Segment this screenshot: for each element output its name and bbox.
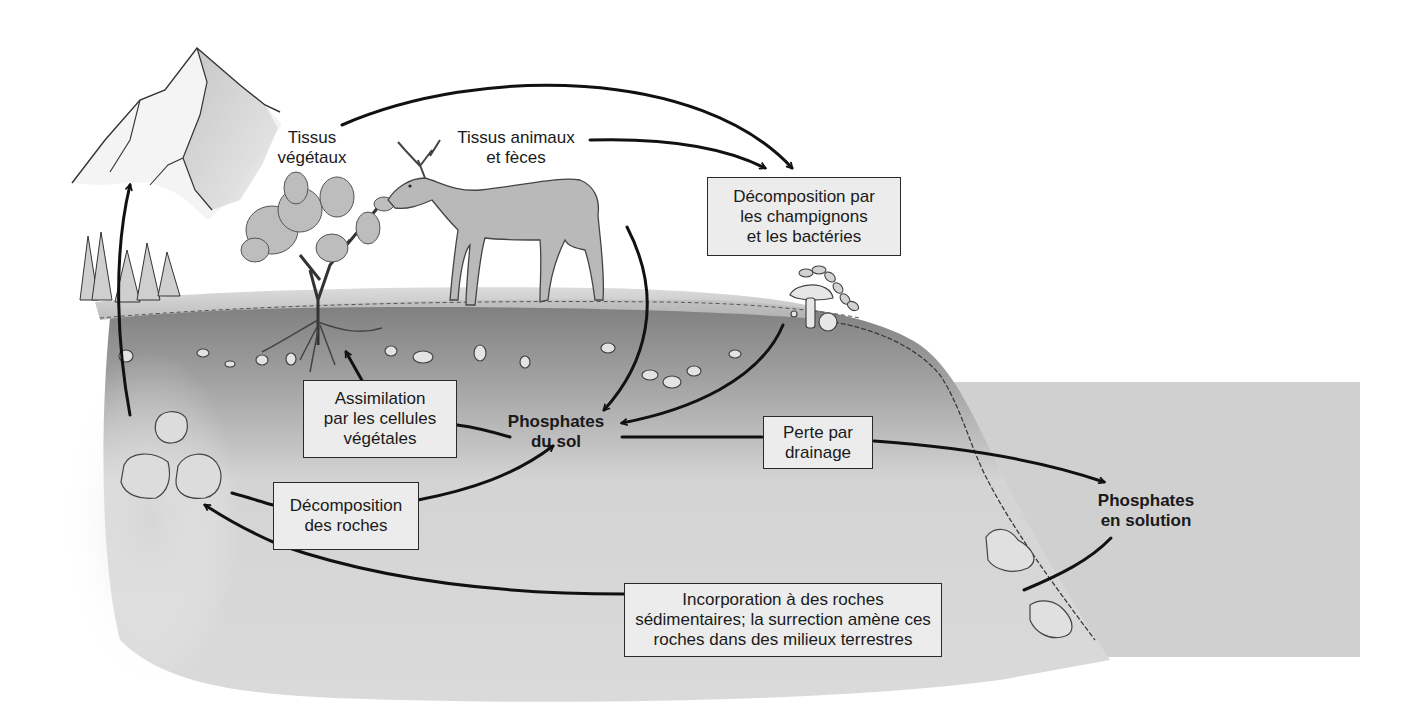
mountain-icon — [72, 48, 282, 220]
box-sedimentation-line1: Incorporation à des roches — [682, 590, 883, 610]
box-assimilation-line3: végétales — [344, 429, 417, 449]
label-soil-phosphate: Phosphates du sol — [500, 412, 612, 452]
pine-trees-icon — [80, 232, 180, 302]
box-assimilation: Assimilation par les cellules végétales — [303, 380, 457, 458]
label-soil-phosphate-line2: du sol — [500, 432, 612, 452]
label-animal-tissue-line2: et fèces — [446, 148, 586, 168]
label-plant-tissue-line1: Tissus — [262, 128, 362, 148]
box-sedimentation-line3: roches dans des milieux terrestres — [654, 630, 913, 650]
box-sedimentation: Incorporation à des roches sédimentaires… — [624, 583, 942, 657]
box-rock-weathering-line2: des roches — [304, 516, 387, 536]
box-decomposition-fungi-bacteria: Décomposition par les champignons et les… — [707, 177, 901, 256]
label-dissolved-phosphate-line2: en solution — [1084, 511, 1208, 531]
label-plant-tissue-line2: végétaux — [262, 148, 362, 168]
label-animal-tissue: Tissus animaux et fèces — [446, 128, 586, 168]
box-drainage-line1: Perte par — [783, 423, 853, 443]
box-decomposition-fungi-line1: Décomposition par — [733, 187, 875, 207]
label-animal-tissue-line1: Tissus animaux — [446, 128, 586, 148]
box-decomposition-fungi-line2: les champignons — [740, 207, 868, 227]
box-rock-weathering-line1: Décomposition — [290, 496, 402, 516]
label-plant-tissue: Tissus végétaux — [262, 128, 362, 168]
box-rock-weathering: Décomposition des roches — [273, 482, 419, 550]
label-soil-phosphate-line1: Phosphates — [500, 412, 612, 432]
box-drainage: Perte par drainage — [763, 416, 873, 469]
label-dissolved-phosphate-line1: Phosphates — [1084, 491, 1208, 511]
arrow-animal-to-decomposition — [590, 140, 765, 168]
box-drainage-line2: drainage — [785, 443, 851, 463]
box-assimilation-line1: Assimilation — [335, 389, 426, 409]
box-sedimentation-line2: sédimentaires; la surrection amène ces — [635, 610, 931, 630]
box-assimilation-line2: par les cellules — [324, 409, 436, 429]
label-dissolved-phosphate: Phosphates en solution — [1084, 491, 1208, 531]
soil-icon — [60, 287, 1110, 702]
box-decomposition-fungi-line3: et les bactéries — [747, 227, 861, 247]
